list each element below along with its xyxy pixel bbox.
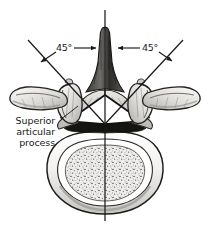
illustration-canvas: 45° 45° Superior articular process bbox=[0, 0, 211, 226]
callout-line-1: Superior bbox=[16, 115, 56, 126]
vertebra-angle-figure: 45° 45° Superior articular process bbox=[0, 0, 211, 226]
callout-line-2: articular bbox=[16, 126, 55, 137]
angle-label-left: 45° bbox=[56, 42, 72, 53]
angle-label-right: 45° bbox=[142, 42, 158, 53]
callout-line-3: process bbox=[19, 137, 55, 148]
